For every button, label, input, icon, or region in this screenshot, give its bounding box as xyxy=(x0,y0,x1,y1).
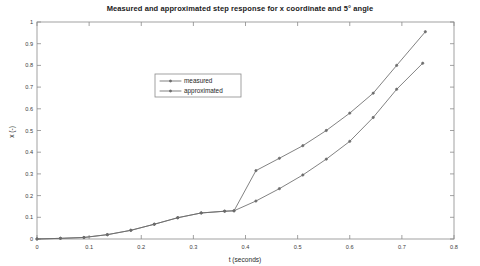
x-tick-label: 0.2 xyxy=(137,244,145,250)
data-point-approximated xyxy=(153,223,155,225)
x-tick-label: 0.5 xyxy=(294,244,302,250)
data-point-measured xyxy=(278,157,280,159)
chart-legend[interactable]: measured approximated xyxy=(155,74,241,97)
data-point-approximated xyxy=(422,62,424,64)
data-point-approximated xyxy=(177,217,179,219)
x-tick-label: 0.6 xyxy=(346,244,354,250)
y-tick-label: 0.8 xyxy=(25,62,33,68)
data-point-measured xyxy=(302,145,304,147)
data-point-measured xyxy=(372,92,374,94)
legend-marker-measured xyxy=(169,80,171,82)
series-line-measured xyxy=(37,32,425,239)
y-tick-label: 0.6 xyxy=(25,106,33,112)
legend-marker-approximated xyxy=(169,90,171,92)
data-point-measured xyxy=(396,64,398,66)
x-axis-title: t (seconds) xyxy=(229,256,262,264)
data-point-measured xyxy=(349,112,351,114)
legend-label-measured: measured xyxy=(184,77,213,84)
data-point-approximated xyxy=(233,210,235,212)
y-tick-label: 0 xyxy=(30,236,33,242)
chart-plot-area: 00.10.20.30.40.50.60.70.8 00.10.20.30.40… xyxy=(0,0,480,266)
x-tick-label: 0.1 xyxy=(85,244,93,250)
y-tick-label: 1 xyxy=(30,19,33,25)
data-point-measured xyxy=(255,169,257,171)
x-tick-label: 0 xyxy=(35,244,38,250)
y-tick-label: 0.9 xyxy=(25,41,33,47)
data-series-layer xyxy=(36,31,427,241)
data-point-approximated xyxy=(130,229,132,231)
x-tick-label: 0.8 xyxy=(450,244,458,250)
y-tick-label: 0.7 xyxy=(25,84,33,90)
data-point-approximated xyxy=(224,210,226,212)
figure-canvas: Measured and approximated step response … xyxy=(0,0,480,266)
data-point-approximated xyxy=(372,116,374,118)
data-point-measured xyxy=(424,31,426,33)
x-tick-label: 0.3 xyxy=(189,244,197,250)
axes-frame xyxy=(37,22,454,239)
legend-label-approximated: approximated xyxy=(184,87,223,95)
data-point-approximated xyxy=(302,174,304,176)
x-axis-ticks: 00.10.20.30.40.50.60.70.8 xyxy=(35,22,457,250)
data-point-approximated xyxy=(396,88,398,90)
data-point-approximated xyxy=(59,237,61,239)
y-axis-title: x (-) xyxy=(8,126,16,138)
data-point-approximated xyxy=(83,236,85,238)
y-tick-label: 0.1 xyxy=(25,214,33,220)
data-point-approximated xyxy=(200,212,202,214)
x-tick-label: 0.7 xyxy=(398,244,406,250)
data-point-approximated xyxy=(349,140,351,142)
x-tick-label: 0.4 xyxy=(242,244,250,250)
data-point-approximated xyxy=(106,234,108,236)
data-point-approximated xyxy=(325,158,327,160)
data-point-approximated xyxy=(278,188,280,190)
y-tick-label: 0.5 xyxy=(25,128,33,134)
data-point-measured xyxy=(325,129,327,131)
y-tick-label: 0.3 xyxy=(25,171,33,177)
y-tick-label: 0.2 xyxy=(25,193,33,199)
data-point-approximated xyxy=(255,200,257,202)
y-tick-label: 0.4 xyxy=(25,149,33,155)
data-point-approximated xyxy=(36,238,38,240)
